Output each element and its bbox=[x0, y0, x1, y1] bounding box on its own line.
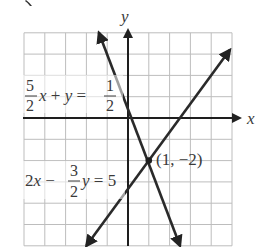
eq2-coef-numerator: 3 bbox=[70, 162, 78, 179]
equation-label-1: 5 2 x + y = 1 2 bbox=[23, 75, 123, 114]
intersection-label: (1, −2) bbox=[156, 150, 202, 169]
intersection-point bbox=[146, 157, 153, 164]
eq2-body: y = 5 bbox=[80, 171, 116, 190]
eq1-rhs-denominator: 2 bbox=[106, 97, 114, 114]
eq1-coef-numerator: 5 bbox=[26, 77, 34, 94]
eq1-body: x + y = bbox=[38, 86, 86, 105]
eq2-coef-denominator: 2 bbox=[70, 183, 78, 200]
equation-label-2: 2x − 3 2 y = 5 bbox=[23, 161, 125, 200]
y-axis-label: y bbox=[119, 7, 129, 26]
eq2-lead: 2x − bbox=[25, 171, 55, 190]
cropped-glyph-fragment bbox=[25, 0, 32, 6]
graph-figure: x y (1, −2) 5 2 x + y = 1 2 2x − 3 2 y =… bbox=[0, 0, 262, 247]
eq1-coef-denominator: 2 bbox=[26, 97, 34, 114]
x-axis-label: x bbox=[246, 109, 255, 128]
eq1-rhs-numerator: 1 bbox=[106, 77, 114, 94]
